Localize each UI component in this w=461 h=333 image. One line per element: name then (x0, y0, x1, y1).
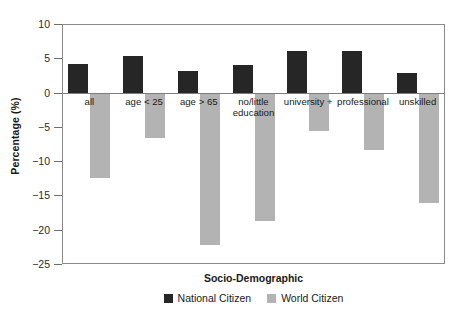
y-axis-tick-label-wrap: −15 (0, 195, 50, 196)
y-axis-tick-label: −10 (2, 156, 50, 167)
bar-national-citizen (287, 51, 307, 92)
category-label: professional (336, 96, 391, 108)
y-axis-tick (54, 58, 62, 59)
y-axis-tick-label: 5 (2, 53, 50, 64)
category-label: no/little education (226, 96, 281, 119)
category-label: all (62, 96, 117, 108)
y-axis-tick (54, 230, 62, 231)
bar-world-citizen (419, 93, 439, 203)
zero-baseline (62, 93, 445, 94)
y-axis-tick-label: −20 (2, 225, 50, 236)
bar-national-citizen (123, 56, 143, 92)
national-swatch (164, 294, 173, 303)
y-axis-tick-label: −15 (2, 190, 50, 201)
y-axis-tick-label-wrap: 0 (0, 93, 50, 94)
y-axis-tick-label: 0 (2, 88, 50, 99)
bar-national-citizen (233, 65, 253, 92)
y-axis-tick (54, 127, 62, 128)
y-axis-tick-label-wrap: 5 (0, 58, 50, 59)
legend-label: National Citizen (178, 292, 252, 304)
y-axis-tick (54, 24, 62, 25)
y-axis-tick (54, 264, 62, 265)
y-axis-tick-label: −5 (2, 122, 50, 133)
category-label: university + (281, 96, 336, 108)
category-label: unskilled (390, 96, 445, 108)
y-axis-tick (54, 161, 62, 162)
legend-item: World Citizen (267, 292, 343, 304)
y-axis-tick-label: 10 (2, 19, 50, 30)
legend-label: World Citizen (281, 292, 343, 304)
y-axis-tick-label-wrap: −25 (0, 264, 50, 265)
y-axis-tick-label-wrap: −10 (0, 161, 50, 162)
chart-legend: National CitizenWorld Citizen (62, 292, 445, 304)
y-axis-tick-label-wrap: −5 (0, 127, 50, 128)
y-axis-tick-label: −25 (2, 259, 50, 270)
bar-national-citizen (68, 64, 88, 93)
bar-national-citizen (342, 51, 362, 92)
legend-item: National Citizen (164, 292, 252, 304)
bar-national-citizen (178, 71, 198, 92)
world-swatch (267, 294, 276, 303)
bar-chart: Percentage (%) 1050−5−10−15−20−25 allage… (0, 0, 461, 333)
y-axis-tick-label-wrap: −20 (0, 230, 50, 231)
y-axis-tick-label-wrap: 10 (0, 24, 50, 25)
category-label: age < 25 (117, 96, 172, 108)
category-label: age > 65 (171, 96, 226, 108)
y-axis-tick (54, 195, 62, 196)
bar-world-citizen (200, 93, 220, 245)
bar-national-citizen (397, 73, 417, 92)
plot-area (62, 24, 445, 264)
y-axis-tick (54, 93, 62, 94)
x-axis-title: Socio-Demographic (62, 272, 445, 284)
